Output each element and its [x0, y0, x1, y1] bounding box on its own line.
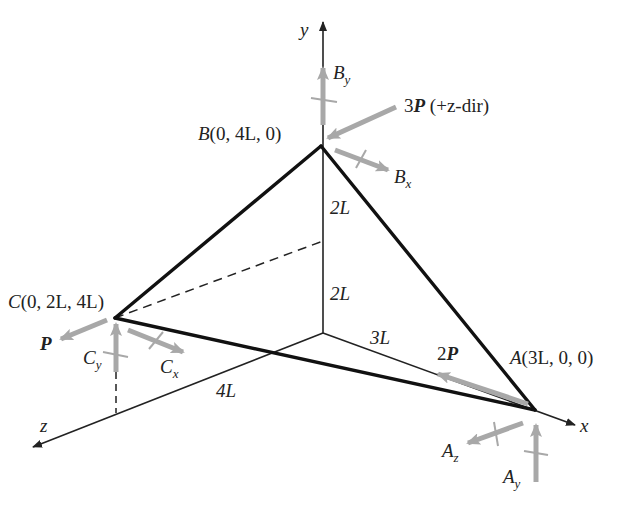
load-3p-label: 3P (+z-dir)	[404, 95, 489, 117]
point-b-label: B(0, 4L, 0)	[198, 123, 281, 145]
reaction-by-label: By	[333, 62, 351, 87]
point-c-label: C(0, 2L, 4L)	[8, 291, 104, 313]
dashed-line-c-to-y-axis	[115, 241, 323, 318]
y-axis-label: y	[298, 19, 309, 40]
load-3p-arrow	[328, 107, 396, 138]
coordinate-axes	[33, 22, 575, 447]
x-axis-label: x	[579, 415, 589, 436]
reaction-ay-label: Ay	[501, 466, 521, 491]
reaction-cx-label: Cx	[160, 356, 179, 381]
reaction-az-label: Az	[440, 440, 459, 465]
forces-at-a	[438, 374, 548, 482]
dimension-y-lower: 2L	[330, 283, 350, 304]
reaction-cy-label: Cy	[83, 347, 102, 372]
reaction-bx-label: Bx	[394, 166, 412, 191]
load-p-arrow	[61, 320, 107, 339]
truss-diagram: y x z B(0, 4L, 0) C(0, 2L, 4L) A(3L, 0, …	[0, 0, 623, 510]
member-bc	[115, 146, 321, 318]
dimension-x-length: 3L	[369, 327, 390, 348]
dimension-z-length: 4L	[216, 380, 236, 401]
z-axis-label: z	[39, 415, 48, 436]
dimension-y-upper: 2L	[330, 197, 350, 218]
point-a-label: A(3L, 0, 0)	[508, 347, 593, 369]
load-2p-label: 2P	[437, 343, 459, 364]
load-p-label: P	[39, 333, 52, 354]
